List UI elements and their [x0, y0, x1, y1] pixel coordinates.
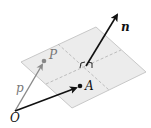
- point-P: [42, 59, 47, 64]
- point-A: [78, 84, 83, 89]
- label-P: P: [48, 48, 58, 62]
- plane-normal-diagram: n P p A O: [0, 0, 151, 128]
- label-p: p: [16, 81, 24, 95]
- label-O: O: [10, 111, 20, 125]
- label-n: n: [121, 20, 130, 34]
- label-A: A: [84, 79, 94, 93]
